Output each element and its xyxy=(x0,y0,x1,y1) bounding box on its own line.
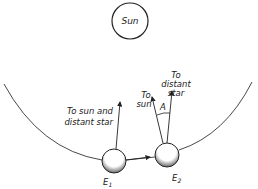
sun-label: Sun xyxy=(121,16,138,26)
e2-star-arrow xyxy=(167,91,172,143)
e1-arrow-label-1: To sun and xyxy=(67,106,114,116)
parallax-diagram: Sun To sun and distant star A To sun To … xyxy=(0,0,258,189)
sun: Sun xyxy=(112,3,148,39)
e2-sun-label-2: sun xyxy=(136,99,151,109)
earth-orbit xyxy=(4,82,252,160)
angle-label: A xyxy=(159,102,166,112)
e1-label: E1 xyxy=(103,177,112,188)
e1-direction-arrow xyxy=(116,102,120,149)
e2-star-label-3: star xyxy=(168,88,185,98)
e2-label: E2 xyxy=(172,173,181,184)
angle-arc xyxy=(157,113,170,115)
motion-arrow xyxy=(126,157,150,160)
earth-e1: E1 xyxy=(102,149,126,188)
earth-e2: E2 xyxy=(155,143,181,184)
e1-arrow-label-2: distant star xyxy=(64,117,113,127)
